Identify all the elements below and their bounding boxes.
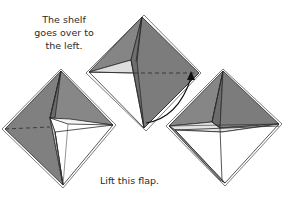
origami-diagram xyxy=(0,0,296,200)
figure-left xyxy=(2,69,116,188)
